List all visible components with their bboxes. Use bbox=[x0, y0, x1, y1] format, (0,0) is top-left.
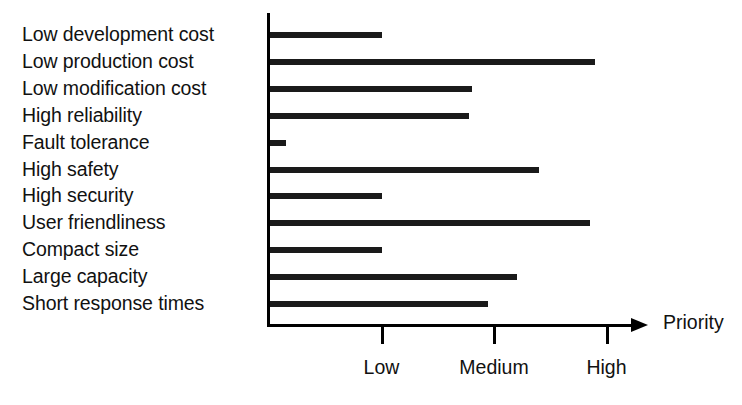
x-axis-tick-label: Low bbox=[364, 358, 400, 378]
category-label: Short response times bbox=[22, 294, 262, 314]
bar bbox=[269, 59, 595, 65]
bar bbox=[269, 32, 382, 38]
bar bbox=[269, 301, 488, 307]
bar bbox=[269, 220, 590, 226]
bar bbox=[269, 86, 472, 92]
x-axis-tick-mark bbox=[381, 327, 384, 344]
x-axis-tick-mark bbox=[606, 327, 609, 344]
x-axis-tick-mark bbox=[493, 327, 496, 344]
category-label: Low modification cost bbox=[22, 79, 262, 99]
x-axis-arrow-icon bbox=[631, 318, 648, 332]
y-axis-line bbox=[267, 13, 270, 327]
bar bbox=[269, 113, 469, 119]
bar bbox=[269, 247, 382, 253]
category-label: High security bbox=[22, 186, 262, 206]
category-label: Low production cost bbox=[22, 52, 262, 72]
category-label: Compact size bbox=[22, 240, 262, 260]
category-label: High reliability bbox=[22, 106, 262, 126]
bar bbox=[269, 193, 382, 199]
bar bbox=[269, 167, 539, 173]
category-label: High safety bbox=[22, 160, 262, 180]
bar bbox=[269, 140, 286, 146]
x-axis-title: Priority bbox=[663, 313, 724, 333]
x-axis-tick-label: Medium bbox=[459, 358, 528, 378]
category-label: User friendliness bbox=[22, 213, 262, 233]
category-label: Large capacity bbox=[22, 267, 262, 287]
bar bbox=[269, 274, 517, 280]
x-axis-tick-label: High bbox=[586, 358, 626, 378]
category-label: Fault tolerance bbox=[22, 133, 262, 153]
priority-bar-chart: Low development costLow production costL… bbox=[0, 0, 742, 405]
category-label: Low development cost bbox=[22, 25, 262, 45]
x-axis-line bbox=[267, 324, 632, 327]
